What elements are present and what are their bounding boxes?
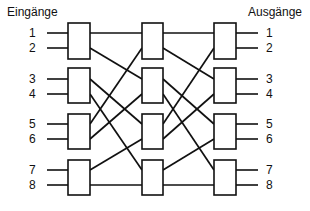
output-label: 2 [266,41,273,55]
input-label: 5 [29,117,36,131]
switch-box [214,160,236,195]
switch-box [142,23,163,59]
outputs-title: Ausgänge [248,5,302,19]
switch-boxes [68,23,236,195]
switch-box [68,23,90,59]
output-label: 7 [266,163,273,177]
switch-box [142,160,163,195]
switch-box [68,160,90,195]
switching-network-diagram: Eingänge Ausgänge 12345678 12345678 [0,0,310,211]
input-label: 6 [29,132,36,146]
switch-box [142,68,163,103]
link-wire [90,48,142,79]
input-label: 7 [29,163,36,177]
output-labels: 12345678 [266,26,273,192]
switch-box [68,114,90,149]
switch-box [68,68,90,103]
switch-box [142,114,163,149]
input-label: 8 [29,178,36,192]
link-wire [163,48,214,79]
input-labels: 12345678 [29,26,36,192]
output-label: 5 [266,117,273,131]
switch-box [214,23,236,59]
input-label: 3 [29,72,36,86]
link-wire [90,139,142,170]
switch-box [214,114,236,149]
input-label: 1 [29,26,36,40]
output-label: 4 [266,87,273,101]
output-label: 1 [266,26,273,40]
output-label: 8 [266,178,273,192]
output-label: 3 [266,72,273,86]
link-wire [163,139,214,170]
input-label: 4 [29,87,36,101]
switch-box [214,68,236,103]
inputs-title: Eingänge [7,5,58,19]
output-label: 6 [266,132,273,146]
input-label: 2 [29,41,36,55]
